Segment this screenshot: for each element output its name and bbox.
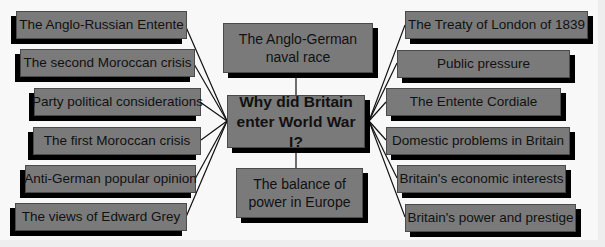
factor-label: Anti-German popular opinion: [24, 171, 197, 187]
factor-label: The Anglo-Russian Entente: [19, 17, 183, 33]
factor-naval-race: The Anglo-German naval race: [223, 23, 373, 73]
factor-treaty-of-london: The Treaty of London of 1839: [405, 11, 588, 39]
factor-edward-grey: The views of Edward Grey: [15, 203, 187, 231]
central-question: Why did Britain enter World War I?: [227, 95, 365, 148]
factor-label: The second Moroccan crisis: [23, 55, 191, 71]
factor-anglo-russian-entente: The Anglo-Russian Entente: [16, 11, 187, 39]
factor-power-and-prestige: Britain's power and prestige: [405, 204, 576, 232]
factor-domestic-problems: Domestic problems in Britain: [386, 127, 570, 155]
factor-label: Britain's economic interests: [400, 171, 564, 187]
factor-label: The views of Edward Grey: [22, 209, 180, 225]
factor-label: Britain's power and prestige: [407, 210, 573, 226]
factor-public-pressure: Public pressure: [397, 50, 570, 78]
factor-balance-of-power: The balance of power in Europe: [236, 168, 363, 218]
factor-entente-cordiale: The Entente Cordiale: [386, 88, 561, 116]
factor-label: The Anglo-German naval race: [224, 30, 372, 66]
factor-label: Public pressure: [437, 56, 530, 72]
factor-party-political: Party political considerations: [34, 88, 201, 116]
factor-label: Party political considerations: [32, 94, 203, 110]
central-question-label: Why did Britain enter World War I?: [228, 92, 364, 152]
factor-label: The balance of power in Europe: [237, 175, 362, 211]
factor-label: The Entente Cordiale: [410, 94, 538, 110]
factor-label: The Treaty of London of 1839: [408, 17, 585, 33]
factor-second-moroccan-crisis: The second Moroccan crisis: [20, 49, 195, 77]
factor-label: The first Moroccan crisis: [44, 133, 190, 149]
factor-anti-german-opinion: Anti-German popular opinion: [25, 165, 196, 193]
factor-label: Domestic problems in Britain: [392, 133, 564, 149]
factor-economic-interests: Britain's economic interests: [397, 165, 566, 193]
factor-first-moroccan-crisis: The first Moroccan crisis: [33, 127, 201, 155]
